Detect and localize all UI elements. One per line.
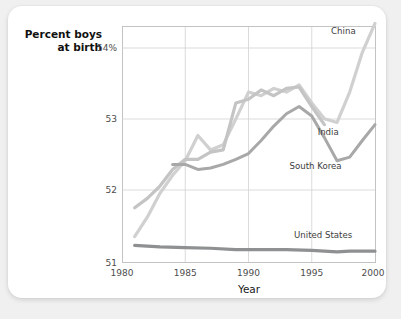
y-tick-labels: 54% 53 52 51 <box>97 43 117 268</box>
x-tick-2000: 2000 <box>362 268 385 278</box>
y-axis-title-line2: at birth <box>57 41 102 53</box>
series-line-south-korea <box>173 107 375 170</box>
x-tick-1990: 1990 <box>237 268 260 278</box>
x-tick-1980: 1980 <box>111 268 134 278</box>
line-chart: Percent boys at birth 54% 53 52 51 1980 … <box>0 0 401 319</box>
y-tick-51: 51 <box>106 258 117 268</box>
y-tick-53: 53 <box>106 114 117 124</box>
y-tick-52: 52 <box>106 185 117 195</box>
y-axis-title: Percent boys at birth <box>25 28 102 53</box>
plot-frame <box>123 27 376 263</box>
series-label-india: India <box>318 127 339 137</box>
x-axis-title: Year <box>237 283 261 295</box>
series-line-united-states <box>135 245 375 252</box>
series-line-china <box>135 23 375 236</box>
series-annotations: ChinaIndiaSouth KoreaUnited States <box>290 26 356 240</box>
chart-stage: Percent boys at birth 54% 53 52 51 1980 … <box>0 0 401 319</box>
series-layer <box>135 23 375 252</box>
x-tick-labels: 1980 1985 1990 1995 2000 <box>111 268 385 278</box>
series-label-china: China <box>331 26 356 36</box>
x-tick-1985: 1985 <box>174 268 197 278</box>
series-label-united-states: United States <box>294 230 353 240</box>
y-axis-title-line1: Percent boys <box>25 28 102 40</box>
x-tick-1995: 1995 <box>300 268 323 278</box>
series-label-south-korea: South Korea <box>290 161 342 171</box>
y-tick-54: 54% <box>97 43 117 53</box>
